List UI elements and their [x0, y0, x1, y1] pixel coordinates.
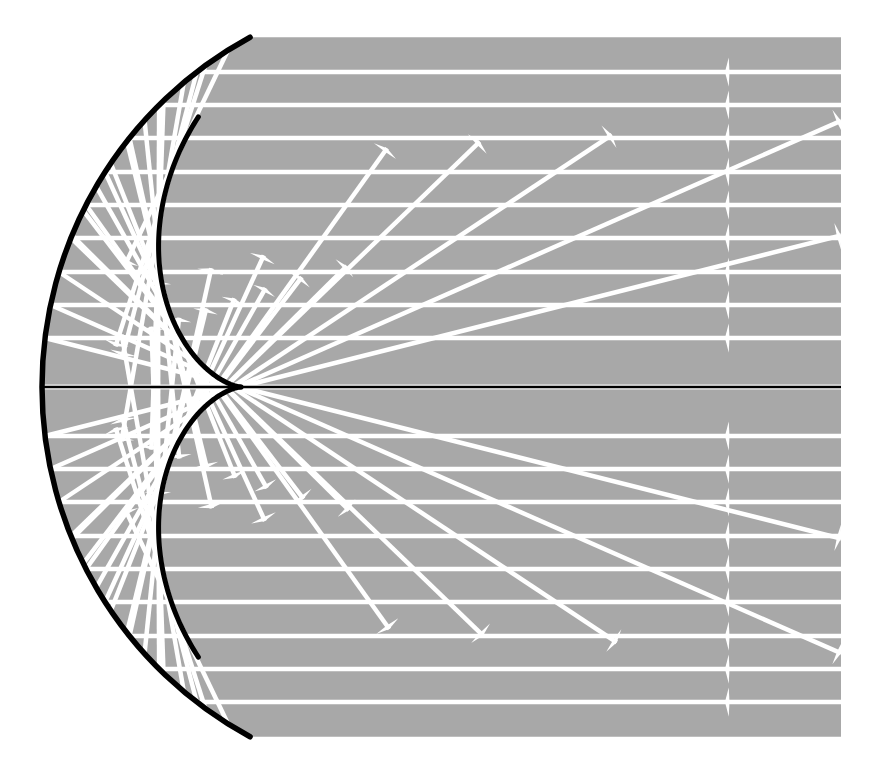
- figure-root: Caustic of a spherical mirror with paral…: [0, 0, 871, 770]
- caustic-diagram-svg: Caustic of a spherical mirror with paral…: [0, 0, 871, 770]
